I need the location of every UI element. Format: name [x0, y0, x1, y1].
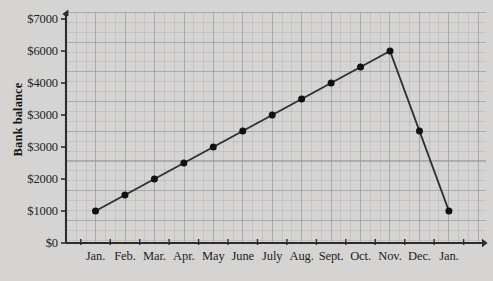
data-point: [239, 128, 246, 135]
data-point: [121, 192, 128, 199]
data-point: [210, 144, 217, 151]
data-point: [269, 112, 276, 119]
data-series-line: [96, 51, 449, 211]
data-point: [445, 208, 452, 215]
data-point: [92, 208, 99, 215]
axis-tick-marks: [61, 19, 464, 245]
data-point: [180, 160, 187, 167]
data-point: [387, 48, 394, 55]
chart-vector-layer: [0, 0, 493, 281]
line-chart: Bank balance $7000$6000$4000$3000$3000$2…: [0, 0, 493, 281]
data-point: [328, 80, 335, 87]
data-point: [298, 96, 305, 103]
data-point: [416, 128, 423, 135]
data-point: [151, 176, 158, 183]
data-point: [357, 64, 364, 71]
